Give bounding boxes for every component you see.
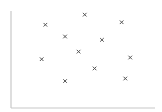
x-marker-icon xyxy=(124,77,128,81)
x-marker-icon xyxy=(63,79,67,83)
x-marker-icon xyxy=(83,13,87,17)
x-marker-icon xyxy=(120,20,124,24)
x-marker-icon xyxy=(93,67,97,71)
x-marker-icon xyxy=(100,38,104,42)
x-marker-icon xyxy=(40,57,44,61)
x-marker-icon xyxy=(77,50,81,54)
x-marker-icon xyxy=(44,23,48,27)
scatter-plot xyxy=(0,0,162,112)
x-marker-icon xyxy=(63,35,67,39)
data-markers xyxy=(40,13,132,83)
x-marker-icon xyxy=(128,56,132,60)
